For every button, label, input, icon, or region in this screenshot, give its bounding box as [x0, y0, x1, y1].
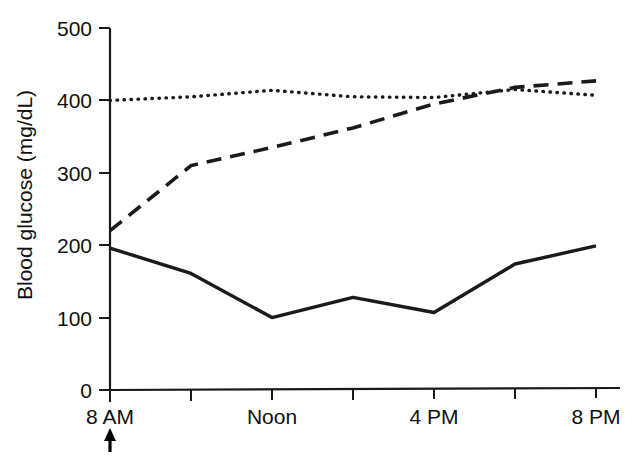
x-tick-label-4pm: 4 PM	[409, 405, 458, 428]
meal-arrow-icon	[104, 428, 116, 452]
chart-canvas: 500 400 300 200 100 0 Blood glucose (mg/…	[0, 0, 633, 456]
series-solid-line	[110, 246, 596, 318]
x-tick-label-8am: 8 AM	[86, 405, 134, 428]
y-axis-ticks	[99, 28, 110, 390]
x-axis-line	[110, 388, 620, 390]
x-tick-label-noon: Noon	[247, 405, 297, 428]
y-tick-label-200: 200	[57, 234, 92, 257]
series-dashed-line	[110, 81, 596, 231]
y-axis-title: Blood glucose (mg/dL)	[13, 90, 36, 300]
y-tick-label-0: 0	[80, 379, 92, 402]
y-tick-label-400: 400	[57, 89, 92, 112]
glucose-line-chart: 500 400 300 200 100 0 Blood glucose (mg/…	[0, 0, 633, 456]
series-dotted-line	[110, 90, 596, 101]
y-tick-label-300: 300	[57, 162, 92, 185]
x-tick-label-8pm: 8 PM	[571, 405, 620, 428]
y-tick-label-100: 100	[57, 307, 92, 330]
y-tick-label-500: 500	[57, 17, 92, 40]
